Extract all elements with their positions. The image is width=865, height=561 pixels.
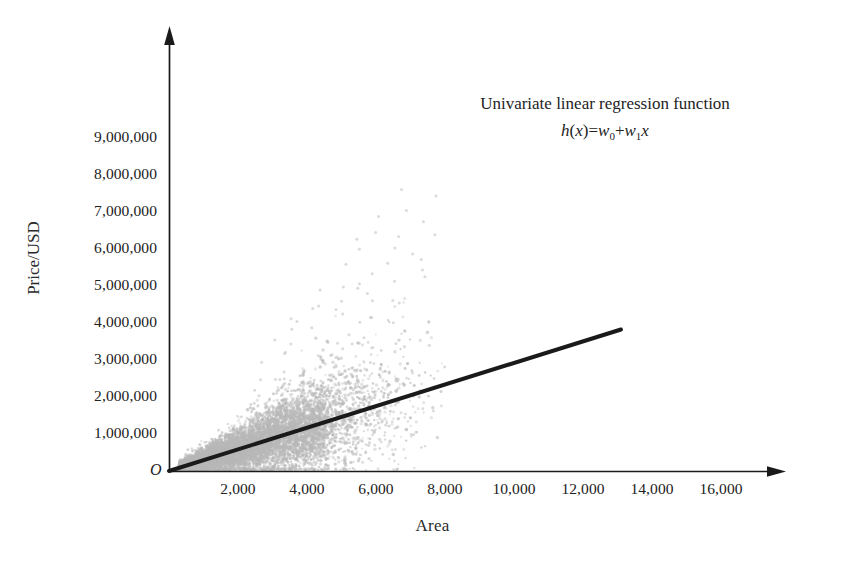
y-tick-label: 4,000,000 (0, 313, 157, 331)
y-tick-label: 7,000,000 (0, 202, 157, 220)
origin-label: O (150, 461, 162, 479)
y-tick-label: 9,000,000 (0, 128, 157, 146)
y-tick-label: 2,000,000 (0, 387, 157, 405)
x-axis-arrow-icon (767, 466, 786, 477)
formula-x-var: x (641, 121, 649, 140)
y-tick-label: 1,000,000 (0, 424, 157, 442)
annotation-title: Univariate linear regression function (480, 94, 730, 113)
formula-plus: + (615, 121, 625, 140)
formula-w0: w (598, 121, 609, 140)
y-tick-label: 5,000,000 (0, 276, 157, 294)
regression-annotation: Univariate linear regression function h(… (405, 92, 805, 145)
regression-formula: h(x)=w0+w1x (405, 119, 805, 145)
y-tick-label: 3,000,000 (0, 350, 157, 368)
y-tick-label: 6,000,000 (0, 239, 157, 257)
x-axis-title: Area (0, 516, 865, 536)
y-tick-label: 8,000,000 (0, 165, 157, 183)
y-axis-arrow-icon (164, 26, 175, 45)
formula-w1: w (625, 121, 636, 140)
formula-h: h (561, 121, 570, 140)
scatter-cloud (178, 188, 447, 472)
formula-equals: = (588, 121, 598, 140)
regression-scatter-figure: Price/USD Area O Univariate linear regre… (0, 0, 865, 561)
x-tick-label: 16,000 (673, 480, 769, 498)
formula-x-arg: x (575, 121, 583, 140)
